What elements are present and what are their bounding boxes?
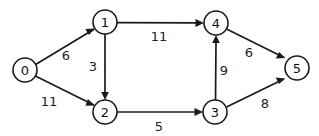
edge-weight-1-4: 11 <box>151 29 168 44</box>
edge-1-to-4 <box>117 19 204 27</box>
node-0[interactable]: 0 <box>13 58 37 82</box>
edge-1-to-2 <box>101 34 109 100</box>
graph-canvas: 0 1 2 3 4 5 6 1 <box>0 0 319 136</box>
edge-weight-3-5: 8 <box>261 96 269 111</box>
node-1[interactable]: 1 <box>93 10 117 34</box>
arrow-head-4-5 <box>276 52 285 58</box>
node-0-label: 0 <box>21 63 29 78</box>
node-5-label: 5 <box>293 61 301 76</box>
edge-2-to-3 <box>117 108 203 116</box>
node-4[interactable]: 4 <box>204 11 228 35</box>
node-5[interactable]: 5 <box>285 56 309 80</box>
edge-line-3-4 <box>216 42 217 100</box>
node-3-label: 3 <box>211 105 219 120</box>
edge-weight-4-5: 6 <box>245 45 253 60</box>
node-4-label: 4 <box>212 16 220 31</box>
edge-line-3-5 <box>227 79 285 107</box>
arrow-head-1-4 <box>196 19 205 27</box>
edge-weights-layer: 6 11 3 11 5 9 8 6 <box>41 29 269 134</box>
node-2[interactable]: 2 <box>93 100 117 124</box>
arrow-head-3-4 <box>212 35 220 43</box>
edge-4-to-5 <box>227 29 286 58</box>
node-1-label: 1 <box>101 15 109 30</box>
edge-weight-2-3: 5 <box>155 119 163 134</box>
node-2-label: 2 <box>101 105 109 120</box>
edge-line-4-5 <box>227 29 285 58</box>
edge-weight-3-4: 9 <box>220 63 228 78</box>
arrow-head-1-2 <box>101 92 109 100</box>
edge-weight-0-2: 11 <box>41 94 58 109</box>
graph-figure: 0 1 2 3 4 5 6 1 <box>0 0 319 136</box>
edge-weight-1-2: 3 <box>89 59 97 74</box>
edge-3-to-5 <box>227 78 286 107</box>
arrow-head-0-2 <box>86 99 95 106</box>
arrow-head-2-3 <box>195 108 204 116</box>
edge-3-to-4 <box>212 35 220 100</box>
edge-weight-0-1: 6 <box>62 48 70 63</box>
node-3[interactable]: 3 <box>203 100 227 124</box>
